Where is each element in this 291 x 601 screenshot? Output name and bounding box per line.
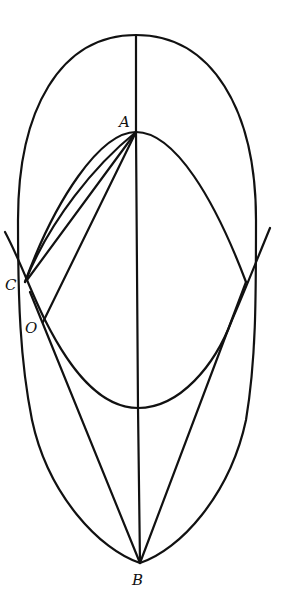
- axis-line: [136, 35, 140, 563]
- line-B-R: [140, 282, 246, 563]
- label-C: C: [5, 276, 17, 294]
- label-O: O: [25, 319, 37, 337]
- chord-A-C: [27, 132, 136, 280]
- line-B-O: [30, 292, 140, 563]
- geometry-diagram: A B C O: [0, 0, 291, 601]
- label-B: B: [131, 571, 143, 589]
- label-A: A: [117, 113, 130, 131]
